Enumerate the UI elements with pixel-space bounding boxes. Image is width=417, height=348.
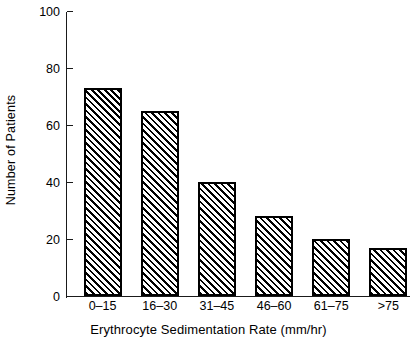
y-axis-tick-label: 0 (53, 290, 60, 303)
y-axis-tick-label: 40 (46, 176, 60, 189)
y-axis-tick-label: 20 (46, 233, 60, 246)
x-axis-tick-label: 46–60 (245, 300, 303, 313)
bar-series (67, 11, 410, 296)
bar (141, 111, 179, 296)
y-axis-title-text: Number of Patients (4, 95, 18, 206)
y-axis-tick-label: 100 (39, 5, 60, 18)
x-axis-tick-label: 0–15 (74, 300, 132, 313)
bar (312, 239, 350, 296)
x-axis-tick-labels: 0–1516–3031–4546–6061–75>75 (67, 300, 410, 318)
x-axis-tick-label: 31–45 (188, 300, 246, 313)
y-axis-tick-mark (67, 296, 73, 297)
bar (255, 216, 293, 296)
x-axis-line (66, 296, 410, 297)
plot-area: 020406080100 (66, 12, 410, 297)
x-axis-title: Erythrocyte Sedimentation Rate (mm/hr) (0, 322, 417, 337)
bar-chart: Number of Patients 020406080100 0–1516–3… (0, 0, 417, 348)
x-axis-tick-label: 61–75 (302, 300, 360, 313)
y-axis-tick-label: 80 (46, 62, 60, 75)
x-axis-tick-label: >75 (359, 300, 417, 313)
y-axis-title: Number of Patients (0, 0, 22, 300)
bar (198, 182, 236, 296)
y-axis-tick: 0 (66, 296, 73, 297)
bar (84, 88, 122, 296)
y-axis-tick-label: 60 (46, 119, 60, 132)
bar (369, 248, 407, 296)
x-axis-tick-label: 16–30 (131, 300, 189, 313)
